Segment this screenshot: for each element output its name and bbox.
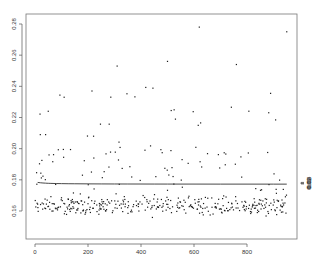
y-tick-label: 0.24 bbox=[11, 80, 17, 92]
y2-tick-label: 0.04 bbox=[306, 176, 312, 188]
y-tick-label: 0.18 bbox=[11, 173, 17, 185]
x-axis: 0200400600800 bbox=[33, 244, 252, 255]
scatter-points bbox=[35, 27, 288, 219]
decay-curve bbox=[38, 182, 287, 184]
scatter-chart: 0200400600800 0.160.180.200.220.240.260.… bbox=[0, 0, 325, 263]
y-axis-left: 0.160.180.200.220.240.260.28 bbox=[11, 18, 22, 217]
y-tick-label: 0.20 bbox=[11, 142, 17, 154]
y-tick-label: 0.16 bbox=[11, 205, 17, 217]
x-tick-label: 0 bbox=[33, 249, 37, 255]
x-tick-label: 200 bbox=[83, 249, 94, 255]
y-tick-label: 0.28 bbox=[11, 18, 17, 30]
x-tick-label: 800 bbox=[242, 249, 253, 255]
x-tick-label: 400 bbox=[136, 249, 147, 255]
y-tick-label: 0.22 bbox=[11, 111, 17, 123]
y-tick-label: 0.26 bbox=[11, 49, 17, 61]
y-axis-right: 0.010.020.030.04 bbox=[301, 176, 312, 190]
x-tick-label: 600 bbox=[189, 249, 200, 255]
